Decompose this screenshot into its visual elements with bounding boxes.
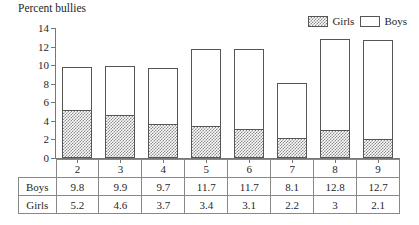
table-row: Girls5.24.63.73.43.12.232.1 [19, 196, 400, 214]
bar-group [191, 28, 221, 158]
table-cell: 5.2 [56, 196, 99, 214]
table-header-cell: 7 [271, 160, 314, 178]
y-tick-mark [51, 139, 55, 140]
table-header-cell: 4 [142, 160, 185, 178]
table-header-row: 23456789 [19, 160, 400, 178]
legend-label-boys: Boys [384, 15, 407, 28]
bar-group [105, 28, 135, 158]
table-row-label: Boys [19, 178, 57, 196]
table-cell: 3.7 [142, 196, 185, 214]
bar-segment-girls [148, 124, 178, 158]
table-header-cell: 5 [185, 160, 228, 178]
bar-segment-girls [62, 110, 92, 158]
table-cell: 2.2 [271, 196, 314, 214]
table-header-cell: 6 [228, 160, 271, 178]
y-tick-mark [51, 121, 55, 122]
legend-swatch-girls-icon [308, 16, 328, 27]
bar-segment-girls [363, 139, 393, 159]
y-tick-mark [51, 65, 55, 66]
y-tick-label: 4 [44, 115, 50, 126]
table-body: Boys9.89.99.711.711.78.112.812.7Girls5.2… [19, 178, 400, 214]
bar-segment-girls [277, 138, 307, 158]
bar-chart-figure: Percent bullies Girls Boys 14121086420 2… [0, 0, 419, 225]
table-cell: 2.1 [357, 196, 400, 214]
legend-entry-girls: Girls [308, 15, 354, 28]
table-cell: 11.7 [228, 178, 271, 196]
table-row: Boys9.89.99.711.711.78.112.812.7 [19, 178, 400, 196]
legend-swatch-boys-icon [360, 16, 380, 27]
bar-segment-girls [191, 126, 221, 158]
y-tick-mark [51, 102, 55, 103]
y-tick-label: 6 [44, 97, 50, 108]
data-table: 23456789 Boys9.89.99.711.711.78.112.812.… [18, 159, 400, 214]
table-cell: 3 [314, 196, 357, 214]
table-cell: 8.1 [271, 178, 314, 196]
bar-segment-girls [320, 130, 350, 158]
table-cell: 4.6 [99, 196, 142, 214]
bar-segment-girls [105, 115, 135, 158]
legend-entry-boys: Boys [360, 15, 407, 28]
table-cell: 12.8 [314, 178, 357, 196]
table-cell: 9.8 [56, 178, 99, 196]
chart-legend: Girls Boys [308, 15, 407, 28]
bar-group [62, 28, 92, 158]
table-header-cell: 3 [99, 160, 142, 178]
y-axis-line [55, 28, 56, 158]
y-tick-label: 2 [44, 134, 50, 145]
y-tick-label: 14 [38, 23, 49, 34]
bar-group [363, 28, 393, 158]
y-tick-mark [51, 28, 55, 29]
bar-group [148, 28, 178, 158]
legend-label-girls: Girls [332, 15, 354, 28]
bar-group [277, 28, 307, 158]
y-tick-mark [51, 47, 55, 48]
table-cell: 9.7 [142, 178, 185, 196]
table-cell: 12.7 [357, 178, 400, 196]
table-cell: 3.4 [185, 196, 228, 214]
bar-segment-girls [234, 129, 264, 158]
y-tick-mark [51, 84, 55, 85]
y-tick-label: 12 [38, 41, 49, 52]
y-tick-label: 10 [38, 60, 49, 71]
page-title: Percent bullies [18, 2, 86, 15]
table-header-cell: 8 [314, 160, 357, 178]
table-row-label: Girls [19, 196, 57, 214]
y-tick-label: 8 [44, 78, 50, 89]
table-cell: 3.1 [228, 196, 271, 214]
table-corner-cell [19, 160, 57, 178]
bar-group [320, 28, 350, 158]
table-cell: 11.7 [185, 178, 228, 196]
table-header-cell: 2 [56, 160, 99, 178]
bar-group [234, 28, 264, 158]
table-cell: 9.9 [99, 178, 142, 196]
table-header-cell: 9 [357, 160, 400, 178]
plot-area: 14121086420 [55, 28, 400, 158]
